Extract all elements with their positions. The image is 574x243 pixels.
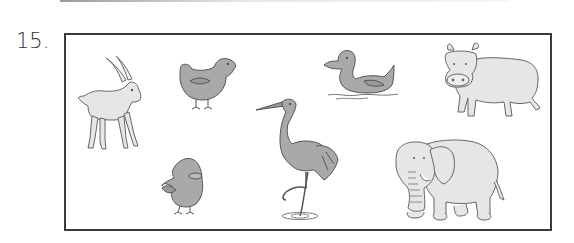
duck-image [322, 47, 402, 101]
hen-image [178, 55, 240, 111]
question-number: 15. [16, 29, 49, 53]
elephant-image [394, 136, 510, 222]
chick-image [160, 154, 212, 216]
cow-image [442, 40, 546, 124]
heron-image [256, 96, 342, 222]
top-divider [60, 0, 510, 2]
goat-image [74, 52, 154, 152]
